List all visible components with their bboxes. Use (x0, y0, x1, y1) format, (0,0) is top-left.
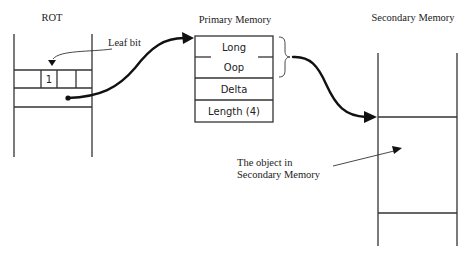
long-oop-brace-icon (279, 37, 290, 77)
field-oop: Oop (224, 62, 244, 73)
field-long: Long (222, 42, 246, 53)
object-annotation-leader-line (333, 151, 394, 166)
primary-memory-block: Primary Memory Long Oop Delta Length (4) (195, 14, 273, 122)
rot-leaf-bit-value: 1 (46, 74, 52, 85)
leaf-bit-leader-line (53, 49, 112, 59)
memory-diagram: ROT 1 Leaf bit Primary Memory Long Oop D… (0, 0, 469, 255)
object-annotation-line2: Secondary Memory (237, 169, 321, 180)
primary-to-secondary-arrowhead-icon (364, 111, 377, 123)
leaf-bit-arrowhead-icon (48, 60, 56, 66)
leaf-bit-label: Leaf bit (108, 37, 141, 48)
secondary-memory-block: Secondary Memory (371, 12, 457, 246)
field-length: Length (4) (208, 106, 260, 117)
secondary-memory-title: Secondary Memory (371, 12, 455, 23)
object-annotation-arrowhead-icon (392, 146, 402, 154)
object-annotation-line1: The object in (237, 157, 293, 168)
field-delta: Delta (221, 84, 248, 95)
rot-title: ROT (42, 12, 64, 23)
primary-to-secondary-arrow (293, 57, 366, 117)
primary-memory-title: Primary Memory (199, 14, 272, 25)
rot-to-primary-arrowhead-icon (182, 32, 194, 44)
rot-table: ROT 1 (14, 12, 92, 157)
